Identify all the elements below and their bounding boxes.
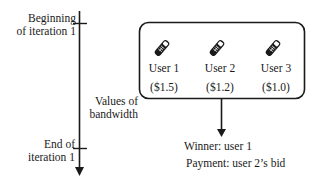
winner-text: Winner: user 1 <box>184 140 252 153</box>
mobile-phone-icon <box>209 39 226 57</box>
end-label: End of iteration 1 <box>0 138 75 164</box>
user-bid: ($1.5) <box>142 81 186 94</box>
user-3: User 3 ($1.0) <box>254 62 298 94</box>
user-bid: ($1.2) <box>198 81 242 94</box>
timeline-arrowhead <box>75 167 84 176</box>
values-label: Values of bandwidth <box>80 95 138 121</box>
start-label-line2: of iteration 1 <box>0 25 76 38</box>
values-label-line1: Values of <box>80 95 138 108</box>
end-label-line1: End of <box>0 138 75 151</box>
mobile-phone-icon <box>265 39 282 57</box>
start-label-line1: Beginning <box>0 12 76 25</box>
end-label-line2: iteration 1 <box>0 151 75 164</box>
user-1: User 1 ($1.5) <box>142 62 186 94</box>
user-name: User 3 <box>254 62 298 75</box>
start-label: Beginning of iteration 1 <box>0 12 76 38</box>
user-name: User 2 <box>198 62 242 75</box>
payment-text: Payment: user 2’s bid <box>186 157 285 170</box>
user-bid: ($1.0) <box>254 81 298 94</box>
user-2: User 2 ($1.2) <box>198 62 242 94</box>
mobile-phone-icon <box>154 39 171 57</box>
values-label-line2: bandwidth <box>80 108 138 121</box>
user-name: User 1 <box>142 62 186 75</box>
result-arrowhead <box>217 129 226 137</box>
